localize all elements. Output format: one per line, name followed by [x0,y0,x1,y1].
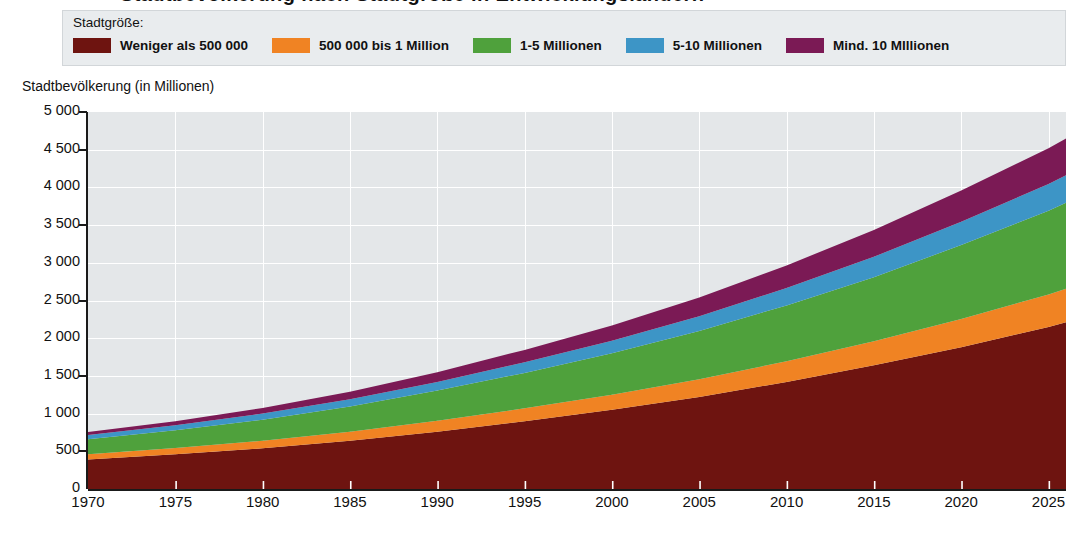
x-axis-tick-label: 2010 [747,493,827,510]
legend-swatch-icon [272,38,310,53]
legend-item-label: Weniger als 500 000 [120,38,248,53]
stacked-area-series [88,112,1066,489]
legend-item-label: 1-5 Millionen [520,38,602,53]
x-axis-tick-label: 1980 [223,493,303,510]
chart-legend: Stadtgröße: Weniger als 500 000500 000 b… [62,10,1066,66]
x-axis-tick-label: 2000 [572,493,652,510]
x-axis-tick [874,481,876,489]
x-axis-tick-label: 1995 [485,493,565,510]
legend-item-min-10m[interactable]: Mind. 10 MIllionen [786,38,949,53]
x-axis-line [88,489,1066,491]
chart-plot-area [88,112,1066,489]
legend-items: Weniger als 500 000500 000 bis 1 Million… [73,38,1061,53]
x-axis-tick [699,481,701,489]
y-axis-tick [79,111,87,113]
legend-item-under-500000[interactable]: Weniger als 500 000 [73,38,272,53]
y-axis-tick-label: 1 500 [10,366,80,382]
legend-swatch-icon [786,38,824,53]
x-axis-tick-label: 1970 [48,493,128,510]
y-axis-tick [79,149,87,151]
y-axis-tick-label: 4 500 [10,140,80,156]
legend-item-label: 500 000 bis 1 Million [319,38,449,53]
legend-heading: Stadtgröße: [73,15,144,30]
legend-swatch-icon [473,38,511,53]
x-axis-tick [787,481,789,489]
legend-swatch-icon [73,38,111,53]
y-axis-tick-label: 3 000 [10,253,80,269]
y-axis-tick-label: 4 000 [10,177,80,193]
x-axis-tick [961,481,963,489]
x-axis-tick [1049,481,1051,489]
legend-item-1-5m[interactable]: 1-5 Millionen [473,38,626,53]
x-axis-tick [175,481,177,489]
x-axis-tick-label: 2015 [834,493,914,510]
y-axis-tick [79,224,87,226]
y-axis-tick [79,450,87,452]
y-axis-tick-label: 5 000 [10,102,80,118]
x-axis-tick-label: 1985 [310,493,390,510]
x-axis-tick-label: 2025 [1009,493,1066,510]
y-axis-tick-label: 2 500 [10,291,80,307]
y-axis-tick-label: 500 [10,441,80,457]
y-axis-labels: 5 0004 5004 0003 5003 0002 5002 0001 500… [8,112,80,489]
x-axis-tick [525,481,527,489]
y-axis-tick-label: 1 000 [10,404,80,420]
x-axis-labels: 1970197519801985199019952000200520102015… [0,493,1066,521]
x-axis-tick-label: 2020 [921,493,1001,510]
y-axis-tick-label: 3 500 [10,215,80,231]
legend-item-label: Mind. 10 MIllionen [833,38,949,53]
legend-item-500000-1m[interactable]: 500 000 bis 1 Million [272,38,473,53]
x-axis-tick-label: 1975 [135,493,215,510]
x-axis-tick-label: 1990 [397,493,477,510]
x-axis-tick [350,481,352,489]
page-title-text: Stadtbevölkerung nach Stadtgröße in Entw… [120,0,704,6]
x-axis-tick [437,481,439,489]
x-axis-tick [263,481,265,489]
y-axis-tick-label: 2 000 [10,328,80,344]
x-axis-tick-label: 2005 [659,493,739,510]
legend-swatch-icon [626,38,664,53]
x-axis-tick [612,481,614,489]
y-axis-tick [79,375,87,377]
legend-item-label: 5-10 Millionen [673,38,762,53]
legend-item-5-10m[interactable]: 5-10 Millionen [626,38,786,53]
y-axis-title: Stadtbevölkerung (in Millionen) [22,78,214,94]
y-axis-tick [79,300,87,302]
